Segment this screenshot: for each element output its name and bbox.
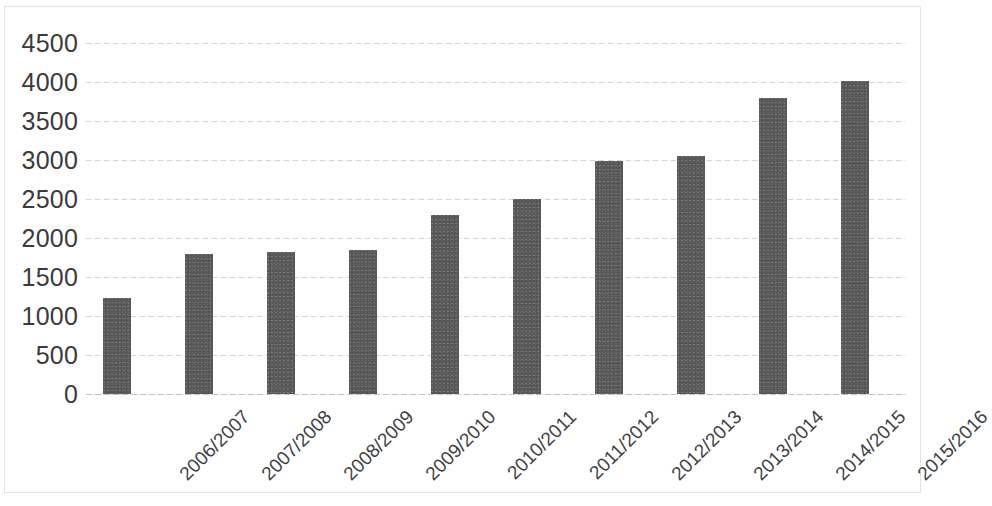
x-axis-tick-label: 2008/2009 (339, 406, 418, 485)
y-axis-tick-label: 2000 (22, 224, 78, 253)
y-axis-tick-label: 3000 (22, 146, 78, 175)
bar (677, 156, 705, 394)
bar (103, 298, 131, 394)
bar (513, 199, 541, 394)
y-axis-tick-label: 500 (36, 341, 78, 370)
bar (595, 161, 623, 394)
x-axis-tick-label: 2012/2013 (667, 406, 746, 485)
x-axis-tick-label: 2007/2008 (257, 406, 336, 485)
x-axis-tick-label: 2006/2007 (175, 406, 254, 485)
bar (185, 254, 213, 394)
bar (759, 98, 787, 394)
x-axis-tick-label: 2013/2014 (749, 406, 828, 485)
bar (267, 252, 295, 394)
y-axis-tick-label: 3500 (22, 107, 78, 136)
y-axis-tick-label: 1000 (22, 302, 78, 331)
y-axis-tick-label: 4000 (22, 68, 78, 97)
bar (841, 81, 869, 394)
x-axis: 2006/20072007/20082008/20092009/20102010… (86, 394, 906, 506)
bar (349, 250, 377, 394)
x-axis-tick-label: 2010/2011 (503, 406, 581, 484)
x-axis-tick-label: 2014/2015 (831, 406, 910, 485)
x-axis-tick-label: 2015/2016 (913, 406, 992, 485)
y-axis-tick-label: 0 (64, 380, 78, 409)
x-axis-tick-label: 2009/2010 (421, 406, 500, 485)
y-axis-tick-label: 1500 (22, 263, 78, 292)
bar-series (86, 43, 906, 394)
bar (431, 215, 459, 394)
y-axis: 050010001500200025003000350040004500 (0, 43, 78, 394)
y-axis-tick-label: 4500 (22, 29, 78, 58)
x-axis-tick-label: 2011/2012 (585, 406, 663, 484)
y-axis-tick-label: 2500 (22, 185, 78, 214)
